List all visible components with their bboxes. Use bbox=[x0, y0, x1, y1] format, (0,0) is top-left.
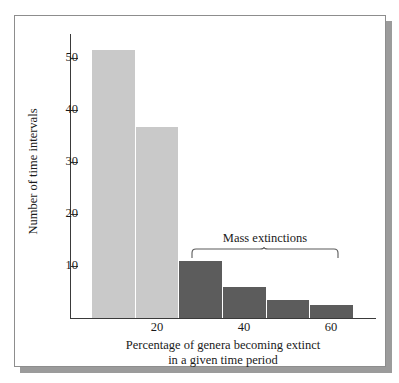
y-tick-group-50: 50 bbox=[15, 58, 78, 59]
bar-bin-35 bbox=[223, 287, 266, 318]
mass-extinctions-annotation-label: Mass extinctions bbox=[190, 232, 340, 245]
x-tick-label-60: 60 bbox=[314, 321, 348, 334]
y-tick-group-30: 30 bbox=[15, 162, 78, 163]
bars-layer bbox=[70, 34, 376, 318]
x-axis-caption-line-2: in a given time period bbox=[70, 353, 376, 368]
x-tick-label-40: 40 bbox=[227, 321, 261, 334]
plot-area: 10 20 30 40 50 bbox=[15, 16, 387, 368]
x-axis-line bbox=[70, 318, 376, 319]
y-tick-group-10: 10 bbox=[15, 266, 78, 267]
y-tick-group-20: 20 bbox=[15, 214, 78, 215]
x-axis-caption-line-1: Percentage of genera becoming extinct bbox=[70, 338, 376, 353]
bar-bin-55 bbox=[310, 305, 353, 318]
mass-extinctions-brace-icon bbox=[191, 247, 339, 259]
y-axis-caption: Number of time intervals bbox=[26, 77, 41, 267]
y-tick-group-0 bbox=[15, 318, 78, 319]
bar-bin-15 bbox=[136, 127, 179, 318]
figure-frame: 10 20 30 40 50 bbox=[14, 15, 386, 367]
bar-bin-25 bbox=[179, 261, 222, 318]
bar-bin-5 bbox=[92, 50, 135, 319]
figure-root: 10 20 30 40 50 bbox=[0, 0, 399, 383]
bar-bin-45 bbox=[267, 300, 310, 318]
x-axis-caption: Percentage of genera becoming extinct in… bbox=[70, 338, 376, 367]
y-tick-group-40: 40 bbox=[15, 110, 78, 111]
x-tick-label-20: 20 bbox=[140, 321, 174, 334]
